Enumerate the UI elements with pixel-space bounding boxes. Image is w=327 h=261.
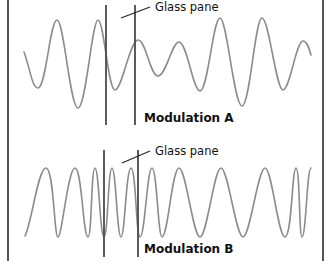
waveform-b <box>25 168 311 237</box>
panel-modulation-b: Glass pane Modulation B <box>25 144 311 257</box>
panel-modulation-a: Glass pane Modulation A <box>24 0 311 125</box>
modulation-diagram: Glass pane Modulation A Glass pane Modul… <box>0 0 327 261</box>
diagram-canvas: Glass pane Modulation A Glass pane Modul… <box>0 0 327 261</box>
modulation-a-title: Modulation A <box>144 111 234 125</box>
modulation-b-title: Modulation B <box>144 242 234 256</box>
waveform-a <box>24 18 311 108</box>
glass-pane-label: Glass pane <box>155 144 219 158</box>
glass-pane-leader-line <box>122 151 150 163</box>
glass-pane-label: Glass pane <box>155 0 219 14</box>
